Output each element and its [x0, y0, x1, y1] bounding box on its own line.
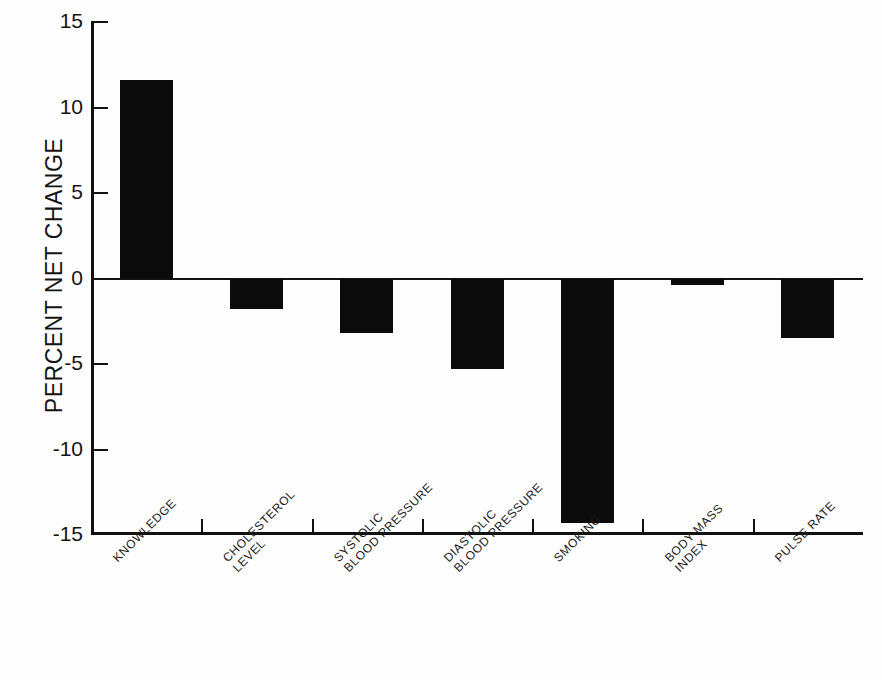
- y-axis-tick-label: -15: [27, 522, 83, 546]
- y-axis-tick: [91, 192, 108, 194]
- y-axis-tick-label: 5: [27, 180, 83, 204]
- bar: [671, 279, 724, 286]
- x-axis-tick: [753, 519, 755, 535]
- bar: [451, 279, 504, 370]
- figure-caption-sliver: [18, 673, 864, 680]
- y-axis-tick-label: -5: [27, 351, 83, 375]
- x-axis-tick: [532, 519, 534, 535]
- x-axis-tick: [422, 519, 424, 535]
- y-axis-tick: [91, 363, 108, 365]
- bar: [340, 279, 393, 334]
- x-axis-tick: [201, 519, 203, 535]
- y-axis-tick: [91, 107, 108, 109]
- y-axis-tick-label: 0: [27, 266, 83, 290]
- bar: [230, 279, 283, 310]
- x-axis-tick: [312, 519, 314, 535]
- y-axis-tick: [91, 21, 108, 23]
- y-axis-tick: [91, 449, 108, 451]
- y-axis-tick: [91, 278, 108, 280]
- y-axis-tick-label: 10: [27, 95, 83, 119]
- bar: [120, 80, 173, 278]
- bar: [781, 279, 834, 339]
- x-axis-tick: [642, 519, 644, 535]
- chart-figure: PERCENT NET CHANGE 151050-5-10-15 KNOWLE…: [0, 0, 882, 680]
- y-axis-tick-label: 15: [27, 9, 83, 33]
- y-axis-tick-label: -10: [27, 437, 83, 461]
- bar: [561, 279, 614, 524]
- plot-area: [91, 22, 863, 535]
